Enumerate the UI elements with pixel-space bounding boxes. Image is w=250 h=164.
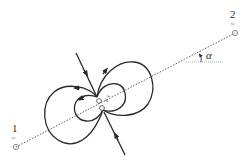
field-loop-large-left [45,86,103,143]
point-2-sublabel: z [230,23,236,26]
dipole-center-lower [100,106,105,111]
point-2-label: 2 [230,9,236,20]
field-line-bottom [104,112,125,155]
field-diagram [0,0,250,164]
point-1-label: 1 [12,123,18,134]
dipole-center-upper [97,99,102,104]
angle-label: α [206,50,212,61]
arrow-loop-large-right [103,70,106,74]
angle-arc [200,55,201,62]
field-line-top [76,53,97,97]
point-1-marker [13,144,18,149]
point-1-sublabel: z [11,137,17,140]
